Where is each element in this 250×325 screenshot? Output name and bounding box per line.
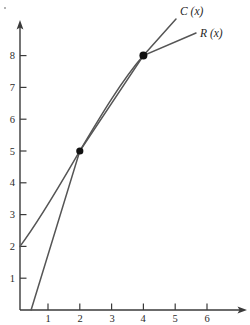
cost-curve-c	[20, 19, 176, 246]
revenue-line-r	[31, 33, 196, 310]
x-tick-label-6: 6	[204, 314, 209, 325]
y-tick-label-4: 4	[10, 178, 15, 189]
x-tick-label-4: 4	[140, 314, 145, 325]
x-tick-label-3: 3	[109, 314, 114, 325]
graph-figure: 1 2 3 4 5 6 1 2 3 4 5 6 7 8 C (x) R (x)	[0, 0, 250, 325]
curve-label-c: C (x)	[180, 6, 203, 18]
x-axis	[20, 307, 247, 314]
y-tick-label-6: 6	[10, 115, 15, 126]
x-tick-label-2: 2	[77, 314, 82, 325]
x-tick-label-1: 1	[45, 314, 50, 325]
y-tick-label-8: 8	[10, 51, 15, 62]
plot-canvas	[0, 0, 250, 325]
y-tick-label-1: 1	[10, 274, 15, 285]
y-tick-label-3: 3	[10, 210, 15, 221]
intersection-point-4-8	[139, 52, 147, 60]
x-tick-label-5: 5	[172, 314, 177, 325]
intersection-point-2-5	[76, 147, 83, 154]
y-tick-label-2: 2	[10, 242, 15, 253]
x-tick-marks	[48, 304, 207, 311]
y-axis	[17, 20, 24, 310]
curve-label-r: R (x)	[200, 28, 223, 40]
y-tick-label-5: 5	[10, 146, 15, 157]
y-tick-label-7: 7	[10, 83, 15, 94]
